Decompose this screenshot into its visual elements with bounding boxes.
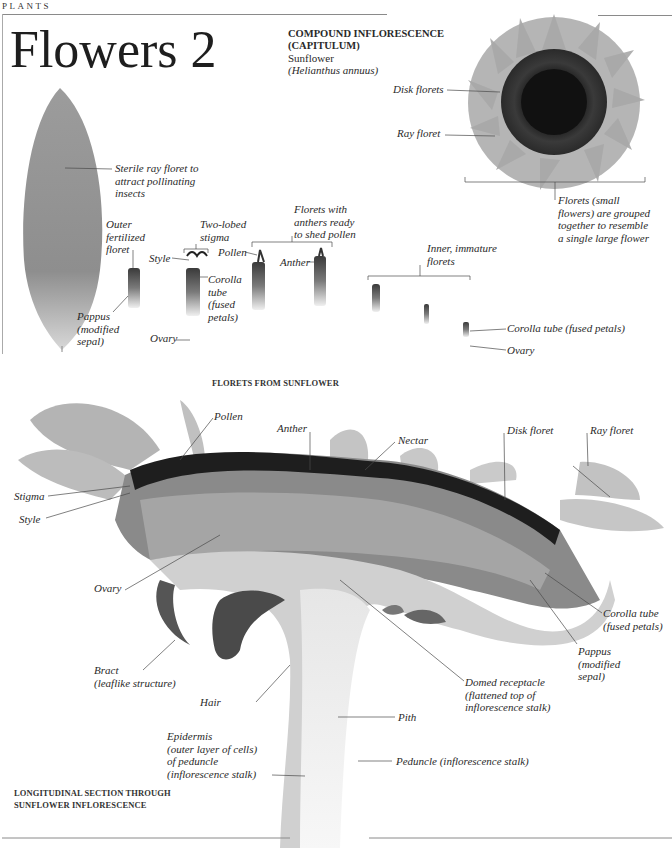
label-two-lobed-stigma: Two-lobed stigma: [200, 218, 246, 243]
label-section-epidermis: Epidermis (outer layer of cells) of pedu…: [167, 730, 257, 780]
caption-longitudinal-section: LONGITUDINAL SECTION THROUGH SUNFLOWER I…: [14, 787, 171, 811]
label-anthers-ready: Florets with anthers ready to shed polle…: [294, 203, 356, 241]
label-section-pollen: Pollen: [214, 410, 243, 423]
label-section-nectar: Nectar: [398, 434, 428, 447]
common-name: Sunflower: [288, 52, 444, 64]
label-ray-floret: Ray floret: [397, 127, 440, 140]
label-sterile-ray-floret: Sterile ray floret to attract pollinatin…: [115, 162, 199, 200]
label-section-stigma: Stigma: [14, 490, 45, 503]
illustration-layer: [0, 0, 672, 848]
latin-name: (Helianthus annuus): [288, 64, 444, 77]
label-section-style: Style: [19, 513, 40, 526]
longitudinal-section-image: [18, 400, 664, 848]
label-style: Style: [149, 252, 170, 265]
label-ovary: Ovary: [150, 332, 178, 345]
label-section-ray-floret: Ray floret: [590, 424, 633, 437]
label-inner-immature-florets: Inner, immature florets: [427, 242, 497, 267]
label-section-ovary: Ovary: [94, 582, 122, 595]
compound-heading: COMPOUND INFLORESCENCE (CAPITULUM) Sunfl…: [288, 28, 444, 77]
label-section-disk-floret: Disk floret: [507, 424, 553, 437]
label-grouped-florets: Florets (small flowers) are grouped toge…: [558, 194, 650, 244]
label-pollen: Pollen: [218, 246, 247, 259]
label-corolla-tube: Corolla tube (fused petals): [208, 273, 242, 323]
label-section-anther: Anther: [277, 422, 307, 435]
label-pappus: Pappus (modified sepal): [77, 310, 119, 348]
label-section-peduncle: Peduncle (inflorescence stalk): [396, 755, 529, 768]
label-ovary-2: Ovary: [507, 344, 535, 357]
label-section-pappus: Pappus (modified sepal): [578, 645, 620, 683]
label-section-bract: Bract (leaflike structure): [94, 664, 176, 689]
label-corolla-tube-fused: Corolla tube (fused petals): [507, 322, 625, 335]
caption-florets: FLORETS FROM SUNFLOWER: [212, 377, 339, 389]
label-section-domed-receptacle: Domed receptacle (flattened top of inflo…: [465, 676, 550, 714]
label-section-hair: Hair: [200, 696, 221, 709]
label-section-pith: Pith: [398, 711, 416, 724]
sunflower-head-image: [468, 14, 645, 190]
label-anther: Anther: [280, 256, 310, 269]
label-disk-florets: Disk florets: [393, 83, 444, 96]
label-section-corolla-tube: Corolla tube (fused petals): [603, 607, 663, 632]
label-outer-fertilized-floret: Outer fertilized floret: [106, 218, 145, 256]
